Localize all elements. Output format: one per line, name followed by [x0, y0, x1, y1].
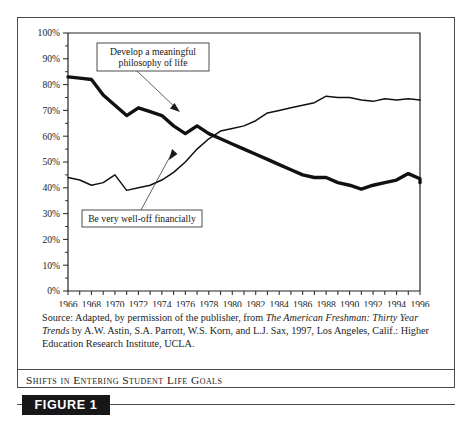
- x-axis-tick-label: 1988: [317, 299, 336, 307]
- y-axis-tick-label: 80%: [42, 79, 60, 90]
- source-note: Source: Adapted, by permission of the pu…: [42, 311, 440, 351]
- x-axis-tick-label: 1966: [58, 299, 77, 307]
- x-axis-tick-label: 1990: [340, 299, 359, 307]
- x-axis-tick-label: 1980: [223, 299, 242, 307]
- data-series-line-1: [68, 77, 420, 189]
- source-text-line2-plain: by A.W. Astin, S.A. Parrott, W.S. Korn, …: [69, 325, 314, 336]
- source-text-line1-italic: The American Freshman:: [266, 312, 370, 323]
- x-axis-tick-label: 1970: [105, 299, 124, 307]
- x-axis-tick-label: 1984: [270, 299, 289, 307]
- callout-well-off-financially: Be very well-off financially: [82, 149, 202, 227]
- line-chart: 0%10%20%30%40%50%60%70%80%90%100%1966196…: [17, 22, 455, 307]
- y-axis-tick-label: 0%: [47, 285, 60, 296]
- x-axis-tick-label: 1986: [293, 299, 312, 307]
- x-axis-tick-label: 1992: [363, 299, 382, 307]
- y-axis-tick-label: 100%: [38, 27, 60, 38]
- x-axis-tick-label: 1996: [410, 299, 429, 307]
- chart-plot-area: 0%10%20%30%40%50%60%70%80%90%100%1966196…: [17, 22, 455, 307]
- x-axis-tick-label: 1974: [152, 299, 171, 307]
- x-axis-tick-label: 1976: [176, 299, 195, 307]
- y-axis-tick-label: 30%: [42, 208, 60, 219]
- x-axis-tick-label: 1972: [129, 299, 148, 307]
- callout-philosophy-line1: Develop a meaningful: [110, 46, 196, 57]
- caption-divider: [17, 369, 455, 370]
- x-axis-tick-label: 1994: [387, 299, 406, 307]
- y-axis-tick-label: 40%: [42, 182, 60, 193]
- y-axis-tick-label: 70%: [42, 105, 60, 116]
- figure-caption: Shifts in Entering Student Life Goals: [26, 374, 222, 386]
- callout-financial-line1: Be very well-off financially: [88, 213, 196, 224]
- x-axis-tick-label: 1982: [246, 299, 265, 307]
- x-axis-tick-label: 1968: [82, 299, 101, 307]
- callout-philosophy-of-life: Develop a meaningfulphilosophy of life: [97, 43, 209, 112]
- figure-number-badge: FIGURE 1: [22, 395, 110, 415]
- y-axis-tick-label: 10%: [42, 260, 60, 271]
- callout-philosophy-line2: philosophy of life: [119, 57, 188, 68]
- y-axis-tick-label: 60%: [42, 131, 60, 142]
- plot-frame: [68, 33, 420, 291]
- y-axis-tick-label: 90%: [42, 53, 60, 64]
- source-text-line1-plain: Source: Adapted, by permission of the pu…: [42, 312, 266, 323]
- y-axis-tick-label: 50%: [42, 156, 60, 167]
- x-axis-tick-label: 1978: [199, 299, 218, 307]
- figure-root: 0%10%20%30%40%50%60%70%80%90%100%1966196…: [0, 0, 472, 422]
- y-axis-tick-label: 20%: [42, 234, 60, 245]
